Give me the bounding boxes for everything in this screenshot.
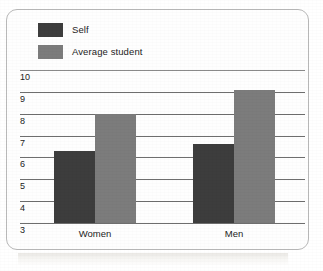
y-axis-tick-3: 3 [20, 225, 42, 235]
legend-item-average-student: Average student [38, 43, 208, 60]
bar-women-self [54, 151, 95, 223]
legend-label-average-student: Average student [72, 46, 143, 57]
chart-bars [20, 70, 305, 223]
x-axis-label-women: Women [54, 228, 136, 239]
legend-label-self: Self [72, 24, 89, 35]
chart-legend: Self Average student [38, 21, 208, 65]
legend-swatch-average-student-icon [38, 45, 63, 59]
chart-plot-area: 109876543 WomenMen [20, 70, 305, 232]
gridline-3 [20, 223, 305, 224]
legend-swatch-self-icon [38, 23, 63, 37]
bar-men-self [193, 144, 234, 223]
chart-figure: Self Average student 109876543 WomenMen [0, 0, 323, 271]
bar-women-average-student [95, 114, 136, 223]
legend-item-self: Self [38, 21, 208, 38]
bar-men-average-student [234, 90, 275, 223]
scan-shadow-strip [18, 253, 288, 265]
x-axis-label-men: Men [193, 228, 275, 239]
